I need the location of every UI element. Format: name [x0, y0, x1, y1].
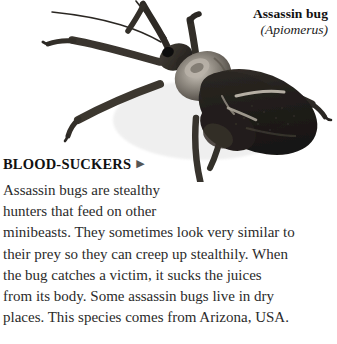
triangle-right-icon: ▶: [136, 157, 144, 170]
body-line: their prey so they can creep up stealthi…: [3, 244, 335, 265]
body-line: minibeasts. They sometimes look very sim…: [3, 222, 335, 243]
caption-latin-name: (Apiomerus): [253, 22, 328, 37]
book-page: Assassin bug (Apiomerus) BLOOD-SUCKERS▶ …: [0, 0, 337, 344]
body-line: hunters that feed on other: [3, 201, 335, 222]
body-text: Assassin bugs are stealthy hunters that …: [3, 180, 335, 328]
body-line: from its body. Some assassin bugs live i…: [3, 286, 335, 307]
specimen-caption: Assassin bug (Apiomerus): [253, 6, 328, 37]
section-heading: BLOOD-SUCKERS▶: [3, 155, 145, 173]
body-line: the bug catches a victim, it sucks the j…: [3, 265, 335, 286]
caption-common-name: Assassin bug: [253, 6, 328, 21]
body-line: Assassin bugs are stealthy: [3, 180, 335, 201]
section-heading-label: BLOOD-SUCKERS: [3, 156, 131, 172]
body-line: places. This species comes from Arizona,…: [3, 307, 335, 328]
